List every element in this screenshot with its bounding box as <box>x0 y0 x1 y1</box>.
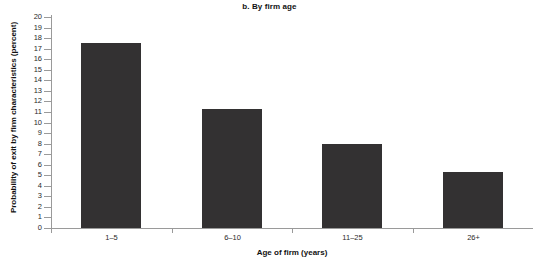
x-axis-category-label: 26+ <box>413 234 534 242</box>
bar <box>322 144 382 228</box>
y-axis-tick-label: 10 <box>2 119 42 127</box>
y-axis-tick <box>44 144 51 145</box>
x-axis-tick <box>51 228 52 233</box>
x-axis-category-label: 1–5 <box>51 234 172 242</box>
x-axis-title: Age of firm (years) <box>51 248 533 257</box>
y-axis-tick-label: 8 <box>2 140 42 148</box>
y-axis-tick-label: 13 <box>2 87 42 95</box>
y-axis-tick-label: 17 <box>2 45 42 53</box>
y-axis-tick-label: 3 <box>2 192 42 200</box>
y-axis-tick-label: 14 <box>2 76 42 84</box>
y-axis-tick-label: 16 <box>2 55 42 63</box>
y-axis-tick-label: 11 <box>2 108 42 116</box>
y-axis-tick-label: 15 <box>2 66 42 74</box>
x-axis-line <box>44 228 533 229</box>
y-axis-tick <box>44 133 51 134</box>
y-axis-tick <box>44 228 51 229</box>
y-axis-tick <box>44 80 51 81</box>
x-axis-tick <box>292 228 293 233</box>
y-axis-tick <box>44 196 51 197</box>
y-axis-tick <box>44 175 51 176</box>
y-axis-tick <box>44 101 51 102</box>
x-axis-tick <box>172 228 173 233</box>
x-axis-category-label: 6–10 <box>172 234 293 242</box>
y-axis-tick-label: 20 <box>2 13 42 21</box>
y-axis-tick-label: 1 <box>2 213 42 221</box>
y-axis-tick-label: 6 <box>2 161 42 169</box>
y-axis-tick-label: 18 <box>2 34 42 42</box>
y-axis-tick <box>44 91 51 92</box>
chart-figure: b. By firm age Probability of exit by fi… <box>0 0 539 276</box>
y-axis-tick-label: 9 <box>2 129 42 137</box>
bar <box>202 109 262 228</box>
y-axis-tick <box>44 38 51 39</box>
y-axis-tick <box>44 217 51 218</box>
chart-title: b. By firm age <box>0 2 539 11</box>
y-axis-tick-label: 19 <box>2 24 42 32</box>
y-axis-tick <box>44 49 51 50</box>
y-axis-tick-label: 2 <box>2 203 42 211</box>
y-axis-tick <box>44 70 51 71</box>
x-axis-tick <box>413 228 414 233</box>
y-axis-tick <box>44 28 51 29</box>
bar <box>443 172 503 228</box>
y-axis-tick <box>44 186 51 187</box>
y-axis-tick-label: 0 <box>2 224 42 232</box>
y-axis-tick-labels: 01234567891011121314151617181920 <box>0 0 42 276</box>
y-axis-tick-label: 4 <box>2 182 42 190</box>
y-axis-tick <box>44 17 51 18</box>
y-axis-tick-label: 5 <box>2 171 42 179</box>
y-axis-tick <box>44 112 51 113</box>
y-axis-tick <box>44 123 51 124</box>
y-axis-tick <box>44 59 51 60</box>
y-axis-tick <box>44 207 51 208</box>
y-axis-tick-label: 7 <box>2 150 42 158</box>
bar <box>81 43 141 228</box>
y-axis-tick <box>44 165 51 166</box>
y-axis-tick <box>44 154 51 155</box>
x-axis-category-label: 11–25 <box>292 234 413 242</box>
y-axis-tick-label: 12 <box>2 97 42 105</box>
